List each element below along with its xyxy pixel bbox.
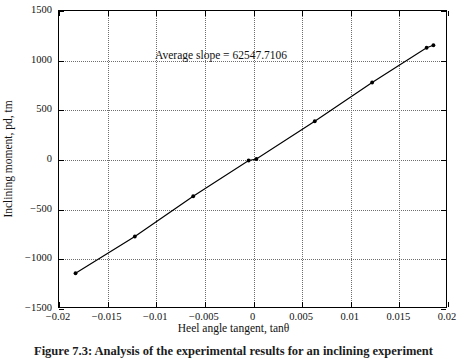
series-line-inclining-moment	[76, 45, 434, 273]
x-tick-mark	[254, 11, 255, 16]
y-tick-label: 1000	[6, 54, 52, 66]
data-point-marker	[432, 43, 436, 47]
data-point-marker	[247, 159, 251, 163]
x-tick-mark	[302, 11, 303, 16]
y-tick-mark	[441, 210, 446, 211]
y-tick-label: 500	[6, 103, 52, 115]
data-point-marker	[370, 81, 374, 85]
x-tick-mark	[448, 302, 449, 307]
x-tick-mark	[448, 11, 449, 16]
y-tick-mark	[59, 160, 64, 161]
x-tick-mark	[351, 11, 352, 16]
y-tick-label: 1500	[6, 4, 52, 16]
x-tick-mark	[302, 302, 303, 307]
data-point-marker	[133, 235, 137, 239]
x-tick-mark	[156, 11, 157, 16]
y-tick-mark	[441, 11, 446, 12]
y-tick-mark	[59, 259, 64, 260]
x-tick-mark	[108, 302, 109, 307]
data-point-marker	[313, 119, 317, 123]
data-point-marker	[191, 194, 195, 198]
x-tick-mark	[399, 11, 400, 16]
y-tick-mark	[59, 11, 64, 12]
figure-caption: Figure 7.3: Analysis of the experimental…	[0, 344, 467, 359]
x-tick-mark	[254, 302, 255, 307]
x-tick-mark	[351, 302, 352, 307]
x-tick-mark	[205, 11, 206, 16]
x-tick-mark	[108, 11, 109, 16]
y-tick-mark	[441, 160, 446, 161]
y-tick-mark	[59, 110, 64, 111]
x-axis-title: Heel angle tangent, tanθ	[0, 322, 467, 334]
y-tick-mark	[441, 259, 446, 260]
y-tick-mark	[59, 61, 64, 62]
x-tick-mark	[59, 302, 60, 307]
x-tick-mark	[399, 302, 400, 307]
data-point-marker	[255, 157, 259, 161]
y-tick-mark	[441, 110, 446, 111]
y-tick-mark	[59, 210, 64, 211]
y-tick-label: −1000	[6, 252, 52, 264]
y-tick-mark	[441, 61, 446, 62]
x-tick-mark	[156, 302, 157, 307]
slope-annotation: Average slope = 62547.7106	[155, 49, 287, 61]
plot-area: Average slope = 62547.7106	[58, 10, 447, 308]
x-tick-mark	[205, 302, 206, 307]
data-point-marker	[74, 271, 78, 275]
y-tick-mark	[441, 309, 446, 310]
y-tick-label: −500	[6, 203, 52, 215]
data-point-marker	[425, 46, 429, 50]
y-tick-mark	[59, 309, 64, 310]
y-tick-label: 0	[6, 153, 52, 165]
